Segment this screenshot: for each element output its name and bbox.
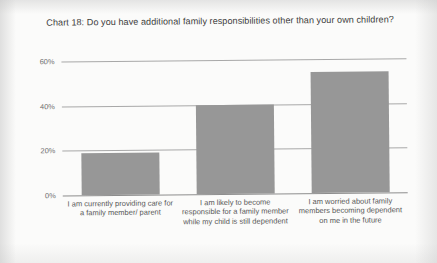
bar-chart-figure: Chart 18: Do you have additional family …	[0, 0, 437, 263]
bars-layer	[61, 58, 407, 195]
bar	[310, 72, 389, 193]
category-axis-labels: I am currently providing care for a fami…	[63, 196, 408, 249]
category-label: I am currently providing care for a fami…	[66, 198, 175, 218]
scanned-page: Chart 18: Do you have additional family …	[0, 0, 437, 263]
y-axis-tick-label: 0%	[45, 191, 56, 200]
plot-area: 0%20%40%60%	[61, 58, 407, 195]
bar	[81, 152, 159, 195]
y-axis-tick-label: 40%	[40, 102, 55, 111]
y-axis-tick-label: 20%	[40, 146, 55, 155]
bar	[195, 104, 274, 194]
y-axis-tick-label: 60%	[40, 57, 55, 66]
category-label: I am worried about family members becomi…	[296, 196, 405, 225]
category-label: I am likely to become responsible for a …	[181, 197, 290, 226]
chart-title: Chart 18: Do you have additional family …	[27, 14, 413, 29]
